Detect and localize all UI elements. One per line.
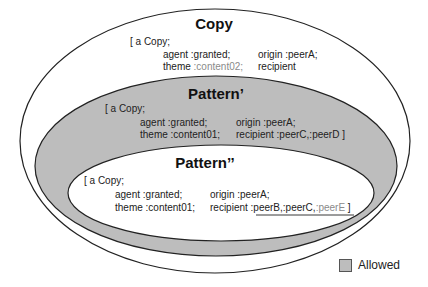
pattern1-theme: theme :content01;	[140, 129, 220, 140]
legend: Allowed	[339, 258, 400, 272]
pattern2-title: Pattern’’	[175, 154, 234, 171]
pattern2-open: [ a Copy;	[84, 175, 124, 186]
allowed-swatch-icon	[339, 259, 352, 272]
pattern2-agent: agent :granted;	[115, 189, 182, 200]
legend-label: Allowed	[358, 258, 400, 272]
pattern2-recipient-label: recipient	[210, 202, 251, 213]
pattern1-title: Pattern’	[188, 85, 244, 102]
pattern2-theme: theme :content01;	[115, 202, 195, 213]
pattern2-recipient-values: :peerB,:peerC,	[251, 202, 316, 213]
copy-agent: agent :granted;	[163, 49, 230, 60]
pattern2-close: ]	[345, 202, 351, 213]
pattern2-recipient: recipient :peerB,:peerC,:peerE ]	[210, 202, 351, 213]
copy-open: [ a Copy;	[130, 36, 170, 47]
pattern1-recipient: recipient :peerC,:peerD ]	[236, 129, 345, 140]
pattern1-agent: agent :granted;	[140, 117, 207, 128]
pattern1-open: [ a Copy;	[105, 103, 145, 114]
copy-theme-value: :content02;	[194, 61, 243, 72]
copy-theme: theme :content02;	[163, 61, 243, 72]
copy-theme-label: theme	[163, 61, 194, 72]
pattern2-recipient-muted: :peerE	[316, 202, 346, 213]
copy-title: Copy	[195, 15, 233, 32]
copy-recipient: recipient	[258, 61, 296, 72]
copy-origin: origin :peerA;	[258, 49, 317, 60]
pattern2-origin: origin :peerA;	[210, 189, 269, 200]
pattern1-origin: origin :peerA;	[236, 117, 295, 128]
diagram: Copy [ a Copy; agent :granted; origin :p…	[0, 0, 428, 287]
